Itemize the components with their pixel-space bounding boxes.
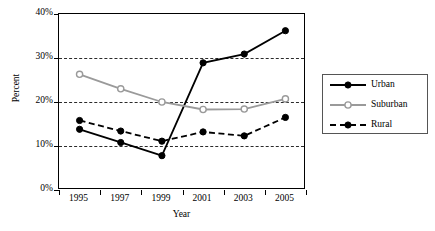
data-point	[118, 139, 124, 145]
data-point	[282, 28, 288, 34]
y-tick-label: 40%	[13, 8, 53, 18]
data-point	[282, 114, 288, 120]
plot-area	[58, 13, 305, 189]
y-tick-label: 30%	[13, 52, 53, 62]
series-layer	[59, 14, 306, 190]
data-point	[200, 129, 206, 135]
legend: UrbanSuburbanRural	[322, 74, 428, 134]
series-rural	[76, 114, 288, 144]
data-point	[200, 106, 206, 112]
data-point	[159, 138, 165, 144]
data-point	[241, 133, 247, 139]
data-point	[159, 99, 165, 105]
x-tick-label: 1997	[100, 194, 140, 204]
data-point	[282, 96, 288, 102]
legend-item-suburban[interactable]: Suburban	[323, 95, 427, 115]
x-tick-label: 2001	[182, 194, 222, 204]
data-point	[76, 117, 82, 123]
x-tick-label: 1999	[141, 194, 181, 204]
legend-item-rural[interactable]: Rural	[323, 115, 427, 135]
legend-label: Urban	[371, 80, 395, 90]
data-point	[241, 106, 247, 112]
x-tick-label: 2005	[264, 194, 304, 204]
x-tick-label: 1995	[59, 194, 99, 204]
data-point	[159, 153, 165, 159]
chart-figure: Percent 0%10%20%30%40% 19951997199920012…	[0, 0, 435, 231]
y-tick-label: 20%	[13, 96, 53, 106]
legend-swatch	[328, 78, 368, 92]
series-line	[80, 117, 286, 141]
y-tick-label: 10%	[13, 140, 53, 150]
legend-swatch	[328, 98, 368, 112]
legend-item-urban[interactable]: Urban	[323, 75, 427, 95]
legend-label: Suburban	[371, 100, 407, 110]
x-tick-mark	[306, 190, 307, 195]
legend-label: Rural	[371, 120, 392, 130]
x-axis-title: Year	[58, 209, 305, 219]
data-point	[118, 86, 124, 92]
series-urban	[76, 28, 288, 159]
data-point	[241, 51, 247, 57]
data-point	[118, 128, 124, 134]
legend-swatch	[328, 118, 368, 132]
series-suburban	[76, 71, 288, 112]
data-point	[200, 60, 206, 66]
x-tick-label: 2003	[223, 194, 263, 204]
data-point	[76, 71, 82, 77]
data-point	[76, 126, 82, 132]
y-tick-label: 0%	[13, 184, 53, 194]
series-line	[80, 74, 286, 109]
